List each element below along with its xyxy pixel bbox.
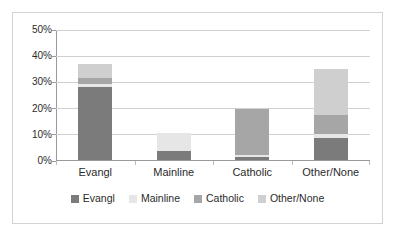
legend-label: Catholic: [206, 193, 244, 204]
bar-segment-other-none[interactable]: [78, 64, 112, 77]
x-axis-tick-label: Catholic: [213, 165, 292, 179]
bar-group-evangl[interactable]: [78, 64, 112, 160]
legend-item-catholic[interactable]: Catholic: [194, 193, 244, 204]
chart-legend: EvanglMainlineCatholicOther/None: [13, 193, 382, 204]
bar-group-other-none[interactable]: [314, 69, 348, 160]
legend-swatch-icon: [71, 195, 79, 203]
plot-area: [56, 30, 370, 161]
x-axis-tick-label: Other/None: [292, 165, 371, 179]
legend-item-mainline[interactable]: Mainline: [129, 193, 180, 204]
bar-segment-other-none[interactable]: [314, 69, 348, 114]
bar-segment-evangl[interactable]: [78, 87, 112, 160]
bar-segment-catholic[interactable]: [314, 115, 348, 134]
bar-segment-catholic[interactable]: [235, 109, 269, 156]
y-axis-tick-label: 40%: [12, 51, 52, 61]
x-axis-tick-label: Mainline: [135, 165, 214, 179]
bar-segment-evangl[interactable]: [235, 157, 269, 160]
x-tick: [369, 161, 370, 165]
y-tick-10: [52, 134, 56, 135]
y-axis-labels: 0%10%20%30%40%50%: [13, 30, 52, 161]
bar-segment-mainline[interactable]: [157, 133, 191, 151]
bar-group-catholic[interactable]: [235, 109, 269, 160]
chart-container: 0%10%20%30%40%50% EvanglMainlineCatholic…: [12, 12, 383, 224]
y-axis-tick-label: 30%: [12, 77, 52, 87]
legend-label: Evangl: [83, 193, 115, 204]
bar-group-mainline[interactable]: [157, 133, 191, 160]
y-axis-tick-label: 50%: [12, 25, 52, 35]
y-axis-tick-label: 20%: [12, 104, 52, 114]
y-tick-50: [52, 30, 56, 31]
x-axis-labels: EvanglMainlineCatholicOther/None: [56, 165, 370, 185]
x-axis-tick-label: Evangl: [56, 165, 135, 179]
y-tick-30: [52, 82, 56, 83]
bar-segment-evangl[interactable]: [314, 138, 348, 160]
gridline-50: [56, 30, 370, 31]
legend-item-evangl[interactable]: Evangl: [71, 193, 115, 204]
legend-swatch-icon: [129, 195, 137, 203]
legend-label: Other/None: [270, 193, 324, 204]
legend-swatch-icon: [194, 195, 202, 203]
legend-item-other-none[interactable]: Other/None: [258, 193, 324, 204]
legend-label: Mainline: [141, 193, 180, 204]
y-axis-line: [56, 30, 57, 161]
y-axis-tick-label: 10%: [12, 130, 52, 140]
y-axis-tick-label: 0%: [12, 156, 52, 166]
gridline-40: [56, 56, 370, 57]
y-tick-40: [52, 56, 56, 57]
legend-swatch-icon: [258, 195, 266, 203]
y-tick-20: [52, 108, 56, 109]
bar-segment-evangl[interactable]: [157, 151, 191, 160]
